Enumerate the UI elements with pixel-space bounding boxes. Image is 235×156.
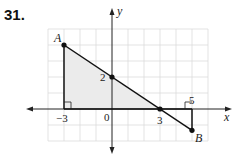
- tick-label-2: 2: [100, 71, 106, 83]
- label-a: A: [53, 31, 62, 45]
- tick-label-neg3: −3: [56, 112, 68, 124]
- y-axis-label: y: [116, 4, 123, 18]
- point-x-intercept: [157, 106, 162, 111]
- label-b: B: [195, 131, 203, 145]
- point-y-intercept: [109, 74, 114, 79]
- origin-label: 0: [104, 111, 110, 123]
- y-axis-arrow-down-icon: [110, 147, 115, 154]
- x-axis-arrow-left-icon: [26, 107, 33, 112]
- x-axis-label: x: [223, 110, 230, 124]
- point-b: [189, 128, 194, 133]
- tick-label-5: 5: [189, 94, 195, 106]
- tick-label-3: 3: [157, 114, 163, 126]
- point-a: [61, 42, 66, 47]
- coordinate-diagram: A B y x 2 0 −3 3 5: [0, 0, 235, 156]
- y-axis-arrow-up-icon: [110, 8, 115, 15]
